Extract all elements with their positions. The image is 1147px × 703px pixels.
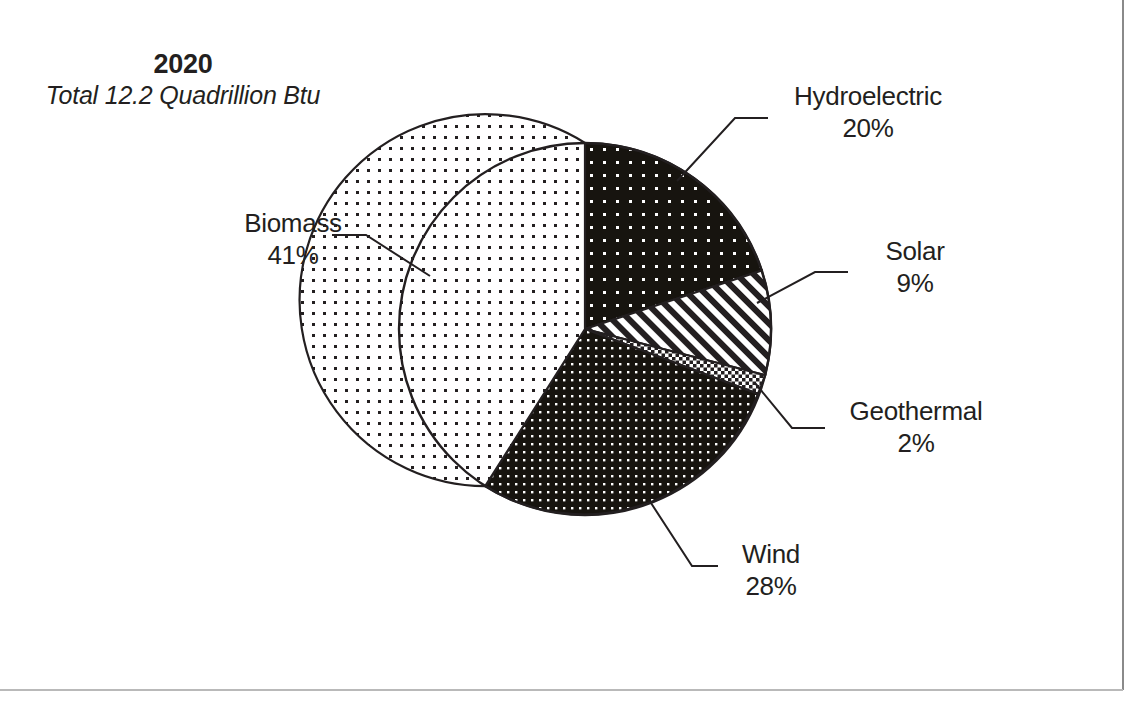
slice-label-hydroelectric-value: 20% xyxy=(778,112,958,144)
slice-label-biomass-value: 41% xyxy=(222,239,364,271)
leader-line-solar xyxy=(757,272,848,303)
leader-line-geothermal xyxy=(755,383,825,428)
slice-label-solar-name: Solar xyxy=(885,236,944,266)
slice-label-geothermal: Geothermal 2% xyxy=(832,395,1000,459)
slice-label-geothermal-name: Geothermal xyxy=(850,396,983,426)
leader-line-wind xyxy=(651,503,718,566)
leader-line-hydroelectric xyxy=(677,118,768,181)
slice-label-hydroelectric-name: Hydroelectric xyxy=(794,81,942,111)
slice-label-solar-value: 9% xyxy=(855,267,975,299)
slice-label-wind-name: Wind xyxy=(742,539,800,569)
slice-label-biomass: Biomass 41% xyxy=(222,207,364,271)
slice-label-solar: Solar 9% xyxy=(855,235,975,299)
slice-label-biomass-name: Biomass xyxy=(244,208,342,238)
slice-label-hydroelectric: Hydroelectric 20% xyxy=(778,80,958,144)
slice-label-wind: Wind 28% xyxy=(725,538,817,602)
figure-canvas: 2020 Total 12.2 Quadrillion Btu xyxy=(0,0,1147,703)
slice-label-geothermal-value: 2% xyxy=(832,427,1000,459)
pie-chart xyxy=(0,0,1147,703)
slice-label-wind-value: 28% xyxy=(725,570,817,602)
